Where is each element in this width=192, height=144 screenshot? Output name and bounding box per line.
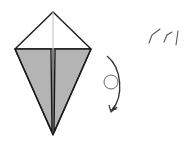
origami-diagram (0, 0, 192, 144)
